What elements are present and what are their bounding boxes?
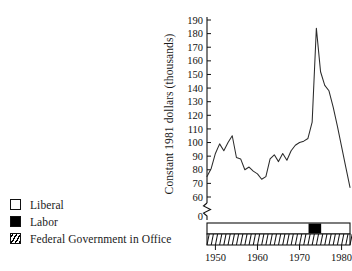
- y-axis-title: Constant 1981 dollars (thousands): [162, 14, 176, 214]
- y-axis-title-text: Constant 1981 dollars (thousands): [163, 34, 175, 195]
- legend-item-labor: Labor: [10, 213, 190, 230]
- legend-label-liberal: Liberal: [30, 199, 64, 211]
- y-axis-zero-label: 0: [198, 211, 203, 222]
- x-tick-labels: 1950196019701980: [205, 252, 352, 263]
- plot-area: 19018017016015014013012011010090807060 1…: [180, 12, 352, 264]
- y-tick-label: 80: [193, 164, 204, 175]
- government-band-segment-labor: [309, 224, 322, 234]
- y-tick-label: 190: [187, 15, 203, 26]
- y-tick-label: 120: [187, 110, 203, 121]
- y-tick-label: 170: [187, 42, 203, 53]
- x-tick-marks: [215, 245, 341, 250]
- legend-label-labor: Labor: [30, 216, 58, 228]
- legend-label-federal-government: Federal Government in Office: [30, 233, 172, 245]
- y-tick-label: 60: [193, 192, 204, 203]
- y-tick-label: 150: [187, 69, 203, 80]
- hatched-square-swatch: [10, 233, 21, 244]
- data-line-series: [207, 28, 350, 187]
- y-tick-label: 90: [193, 151, 204, 162]
- y-tick-label: 160: [187, 55, 203, 66]
- chart-figure: Liberal Labor Federal Government in Offi…: [0, 0, 352, 271]
- black-square-swatch: [10, 216, 21, 227]
- government-band-segments: [309, 224, 322, 234]
- x-tick-label: 1980: [331, 252, 352, 263]
- government-band-outline: [207, 223, 350, 234]
- x-tick-label: 1970: [289, 252, 310, 263]
- y-tick-label: 70: [193, 178, 204, 189]
- legend-item-federal-government: Federal Government in Office: [10, 230, 190, 247]
- y-tick-label: 100: [187, 137, 203, 148]
- y-axis-break-marker: [204, 203, 211, 220]
- y-tick-label: 140: [187, 83, 203, 94]
- white-square-swatch: [10, 199, 21, 210]
- government-band: [207, 223, 352, 245]
- y-tick-label: 180: [187, 28, 203, 39]
- x-tick-label: 1960: [247, 252, 268, 263]
- x-tick-label: 1950: [205, 252, 226, 263]
- y-tick-label: 130: [187, 96, 203, 107]
- y-tick-labels: 19018017016015014013012011010090807060: [187, 15, 203, 203]
- y-tick-label: 110: [188, 124, 203, 135]
